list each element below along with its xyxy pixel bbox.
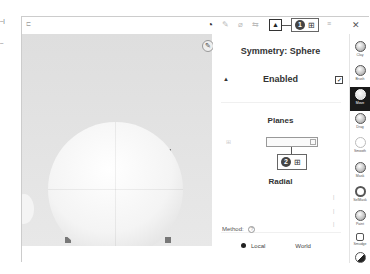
symmetry-button[interactable]: ▲: [269, 19, 282, 31]
sphere-mesh[interactable]: [48, 122, 183, 246]
radio-local[interactable]: Local: [241, 243, 265, 249]
margin-mark: –|: [0, 18, 5, 24]
callout-connector: [282, 25, 291, 26]
paint-icon: [355, 210, 366, 221]
plane-toggle[interactable]: [310, 139, 316, 145]
selmask-icon: [355, 186, 366, 197]
method-row: Method: ?: [222, 226, 255, 233]
tick: |: [333, 208, 334, 214]
callout-number: 2: [281, 157, 291, 167]
tick: |: [333, 194, 334, 200]
tool-selmask[interactable]: SelMask: [350, 184, 370, 208]
app-window: ⊏ ◔ ✎ ⌀ ⇆ ▲ 1 ⊞ ≡ ✕ ✎ Symmetry: Sphere ▲: [21, 16, 369, 262]
3d-viewport[interactable]: [22, 34, 212, 246]
mask-icon: [355, 162, 366, 173]
planes-heading: Planes: [213, 116, 348, 125]
help-icon[interactable]: ?: [248, 226, 255, 233]
enabled-checkbox[interactable]: ✓: [335, 76, 343, 84]
pipette-icon[interactable]: ⌀: [238, 20, 243, 29]
radio-world[interactable]: World: [295, 243, 311, 249]
wedge-circle-icon[interactable]: ◔: [207, 19, 213, 30]
close-icon[interactable]: ✕: [352, 20, 360, 30]
tool-clay[interactable]: Clay: [350, 39, 370, 63]
tool-paint[interactable]: Paint: [350, 208, 370, 232]
callout-connector: [291, 147, 292, 154]
top-toolbar: ⊏ ◔ ✎ ⌀ ⇆ ▲ 1 ⊞ ≡ ✕: [22, 17, 369, 34]
tool-mask[interactable]: Mask: [350, 160, 370, 184]
callout-1: 1 ⊞: [291, 18, 319, 32]
radio-selected-dot: [241, 243, 246, 248]
grid-icon: ⊞: [308, 21, 315, 30]
callout-2: 2 ⊞: [277, 154, 307, 170]
tool-sidebar: Clay Brush Move Drag Smooth Mask SelMask…: [349, 34, 369, 263]
plane-selector[interactable]: [266, 137, 318, 147]
tool-extra[interactable]: [350, 250, 370, 274]
tool-smooth[interactable]: Smooth: [350, 135, 370, 159]
symmetry-line: [48, 189, 183, 190]
smooth-icon: [355, 137, 366, 148]
panel-title: Symmetry: Sphere: [213, 46, 348, 56]
symmetry-line: [115, 122, 116, 246]
radial-heading: Radial: [213, 177, 348, 186]
smudge-icon: [356, 233, 364, 241]
clay-icon: [355, 41, 366, 52]
enabled-row[interactable]: ▲ Enabled ✓: [213, 74, 348, 88]
brush-icon: [355, 65, 366, 76]
pen-icon[interactable]: ✎: [222, 20, 229, 29]
tick: |: [333, 221, 334, 227]
enabled-label: Enabled: [213, 74, 348, 84]
plane-grid-icon: ⊞: [226, 138, 231, 145]
move-icon: [355, 89, 366, 100]
symmetry-panel: Symmetry: Sphere ▲ Enabled ✓ Planes ⊞ 2 …: [213, 34, 348, 246]
callout-number: 1: [295, 20, 305, 30]
tool-brush[interactable]: Brush: [350, 63, 370, 87]
divider: [221, 102, 341, 103]
tool-move[interactable]: Move: [350, 87, 370, 111]
method-label: Method:: [222, 226, 244, 232]
margin-mark: –: [0, 40, 3, 46]
method-radio-group: Local World: [241, 243, 311, 249]
grid-icon: ⊞: [294, 158, 301, 167]
gizmo-corner: [165, 237, 171, 243]
arrows-icon[interactable]: ⇆: [252, 20, 259, 29]
contrast-icon: [355, 252, 366, 263]
menu-icon[interactable]: ⊏: [26, 20, 31, 27]
sliders-icon[interactable]: ≡: [327, 22, 331, 25]
tool-drag[interactable]: Drag: [350, 111, 370, 135]
partial-object: [22, 194, 34, 224]
drag-icon: [355, 113, 366, 124]
